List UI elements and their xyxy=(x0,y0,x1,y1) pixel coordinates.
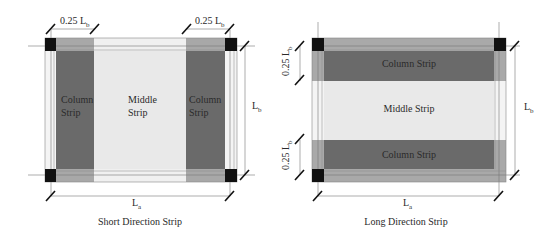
column-square xyxy=(45,38,56,51)
svg-text:0.25 Lb: 0.25 Lb xyxy=(195,15,225,29)
label-column-strip-top: Column Strip xyxy=(382,58,436,69)
dimension-left-top: 0.25 Lb xyxy=(280,41,304,85)
column-square xyxy=(45,169,56,182)
svg-text:0.25 Lb: 0.25 Lb xyxy=(280,140,294,170)
label-middle-strip: Middle Strip xyxy=(384,103,435,114)
dimension-left-bottom: 0.25 Lb xyxy=(280,134,304,180)
caption-short-direction: Short Direction Strip xyxy=(98,216,182,227)
long-direction-diagram: Column Strip Middle Strip Column Strip 0… xyxy=(280,22,534,227)
svg-text:La: La xyxy=(132,197,142,211)
column-square xyxy=(312,38,324,51)
dimension-top-left: 0.25 Lb xyxy=(46,15,99,34)
dimension-right: Lb xyxy=(510,41,534,180)
short-direction-diagram: Column Strip Middle Strip Column Strip 0… xyxy=(28,15,262,227)
column-square xyxy=(225,169,237,182)
svg-text:0.25 Lb: 0.25 Lb xyxy=(60,15,90,29)
label-column-strip-bottom: Column Strip xyxy=(382,149,436,160)
dimension-right: Lb xyxy=(240,41,262,180)
svg-text:Lb: Lb xyxy=(524,101,534,115)
svg-text:0.25 Lb: 0.25 Lb xyxy=(280,46,294,76)
column-square xyxy=(312,169,324,182)
dimension-bottom: La xyxy=(313,191,503,211)
svg-text:Lb: Lb xyxy=(252,100,262,114)
caption-long-direction: Long Direction Strip xyxy=(364,216,447,227)
slab-strip-diagrams: Column Strip Middle Strip Column Strip 0… xyxy=(0,0,556,243)
column-square xyxy=(494,38,506,51)
svg-text:La: La xyxy=(403,197,413,211)
dimension-bottom: La xyxy=(46,191,234,211)
column-square xyxy=(225,38,237,51)
dimension-top-right: 0.25 Lb xyxy=(182,15,234,34)
